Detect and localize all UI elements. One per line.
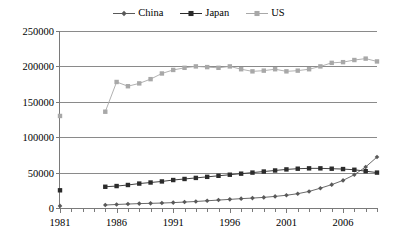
y-axis-label: 150000 — [23, 96, 55, 107]
data-point-china — [295, 191, 300, 196]
data-point-us — [126, 84, 130, 88]
data-point-japan — [58, 188, 62, 192]
x-axis-tick — [377, 208, 378, 212]
plot-area: 050000100000150000200000250000 198119861… — [59, 31, 377, 209]
data-point-japan — [262, 169, 266, 173]
data-point-japan — [216, 174, 220, 178]
data-point-japan — [114, 184, 118, 188]
x-axis-tick — [83, 208, 84, 212]
legend-item-japan[interactable]: Japan — [180, 8, 229, 19]
data-point-china — [216, 198, 221, 203]
data-point-us — [352, 58, 356, 62]
data-point-japan — [273, 168, 277, 172]
legend-marker-japan — [180, 9, 202, 18]
x-axis-label: 1986 — [106, 217, 127, 228]
data-point-japan — [148, 180, 152, 184]
x-axis-tick — [252, 208, 253, 212]
data-point-japan — [296, 167, 300, 171]
x-axis-tick — [162, 208, 163, 212]
legend-marker-us — [246, 9, 268, 18]
data-point-china — [114, 202, 119, 207]
data-point-china — [171, 200, 176, 205]
x-axis-tick — [151, 208, 152, 212]
data-point-us — [262, 68, 266, 72]
data-point-us — [273, 67, 277, 71]
data-point-japan — [307, 166, 311, 170]
legend-marker-china — [113, 9, 135, 18]
data-point-us — [103, 110, 107, 114]
data-point-us — [296, 68, 300, 72]
data-point-japan — [352, 168, 356, 172]
data-point-us — [363, 56, 367, 60]
x-axis-tick — [298, 208, 299, 212]
x-axis-tick — [139, 208, 140, 212]
x-axis-label: 1981 — [50, 217, 71, 228]
data-point-china — [329, 182, 334, 187]
data-point-china — [250, 196, 255, 201]
series-line-japan — [105, 168, 377, 186]
data-point-us — [284, 69, 288, 73]
data-point-us — [160, 71, 164, 75]
x-axis-tick — [185, 208, 186, 212]
data-point-china — [160, 201, 165, 206]
legend-item-china[interactable]: China — [113, 8, 163, 19]
x-axis-tick — [320, 208, 321, 212]
data-point-japan — [250, 170, 254, 174]
data-point-china — [228, 197, 233, 202]
legend-label-china: China — [138, 8, 163, 19]
x-axis-tick — [94, 208, 95, 212]
x-axis-tick — [105, 208, 106, 212]
data-point-japan — [160, 179, 164, 183]
data-point-japan — [375, 170, 379, 174]
data-point-us — [239, 67, 243, 71]
x-axis-tick — [275, 208, 276, 212]
data-point-china — [284, 193, 289, 198]
x-axis-tick — [309, 208, 310, 212]
data-point-japan — [318, 166, 322, 170]
x-axis-tick — [117, 208, 118, 213]
data-point-china — [341, 178, 346, 183]
x-axis-tick — [354, 208, 355, 212]
y-axis-label: 250000 — [23, 26, 55, 37]
data-point-us — [318, 64, 322, 68]
y-axis-label: 100000 — [23, 132, 55, 143]
data-point-china — [307, 189, 312, 194]
data-point-china — [205, 198, 210, 203]
y-axis-label: 50000 — [28, 167, 54, 178]
data-point-us — [148, 77, 152, 81]
x-axis-label: 1991 — [163, 217, 184, 228]
data-point-china — [137, 201, 142, 206]
data-point-us — [205, 65, 209, 69]
data-point-japan — [341, 167, 345, 171]
data-point-china — [318, 186, 323, 191]
data-point-china — [182, 200, 187, 205]
data-point-us — [114, 80, 118, 84]
data-point-us — [250, 69, 254, 73]
data-point-japan — [194, 176, 198, 180]
y-axis-label: 200000 — [23, 61, 55, 72]
legend-item-us[interactable]: US — [246, 8, 284, 19]
data-point-china — [194, 199, 199, 204]
data-point-japan — [330, 167, 334, 171]
data-point-china — [273, 194, 278, 199]
x-axis-tick — [128, 208, 129, 212]
x-axis-tick — [219, 208, 220, 212]
data-point-us — [228, 64, 232, 68]
x-axis-tick — [60, 208, 61, 213]
data-point-us — [58, 114, 62, 118]
data-point-japan — [205, 175, 209, 179]
chart-legend: China Japan US — [0, 8, 398, 19]
x-axis-tick — [207, 208, 208, 212]
data-series-layer — [60, 31, 377, 208]
data-point-japan — [103, 185, 107, 189]
series-line-us — [105, 59, 377, 112]
legend-label-japan: Japan — [205, 8, 229, 19]
x-axis-tick — [173, 208, 174, 213]
data-point-china — [148, 201, 153, 206]
data-point-us — [341, 60, 345, 64]
x-axis-tick — [343, 208, 344, 213]
x-axis-label: 2001 — [276, 217, 297, 228]
x-axis-label: 2006 — [333, 217, 354, 228]
data-point-china — [239, 196, 244, 201]
x-axis-tick — [332, 208, 333, 212]
